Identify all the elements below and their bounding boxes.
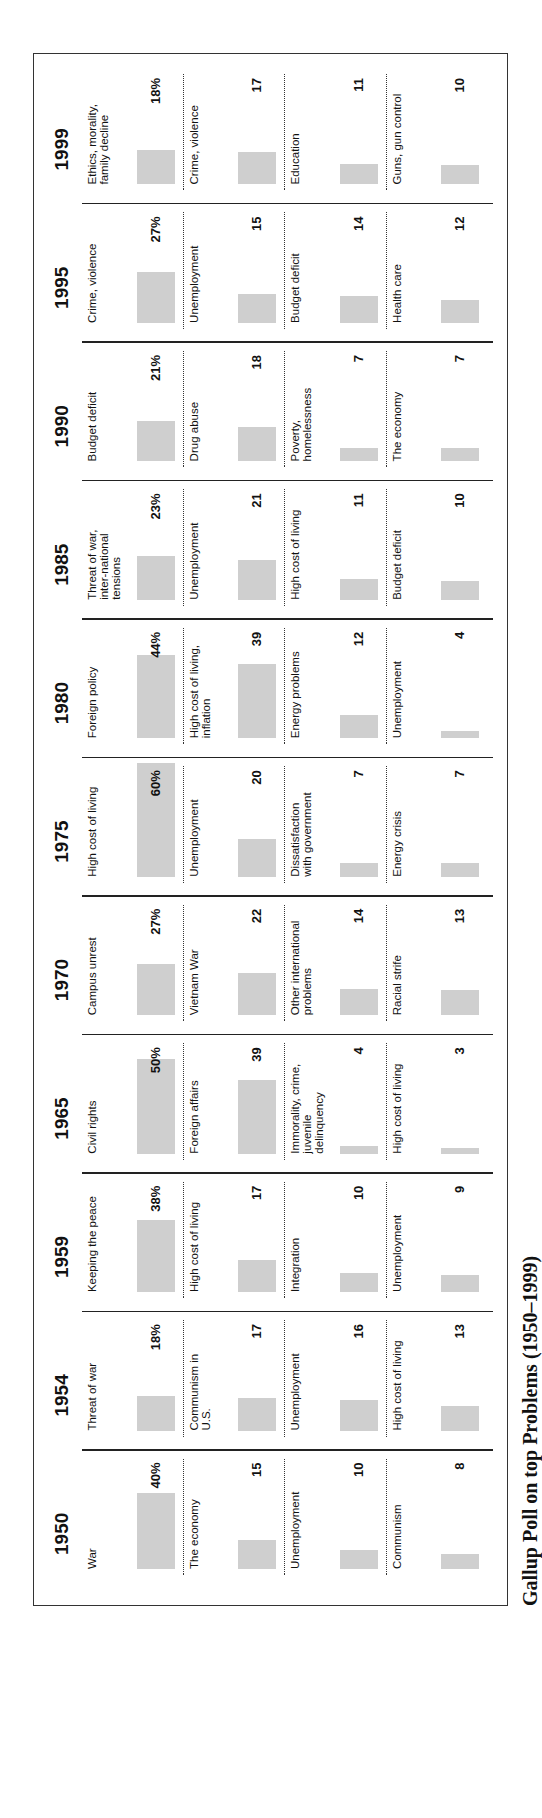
year-heading: 1954 (48, 1320, 82, 1436)
value-bar (441, 863, 479, 876)
percent-value: 13 (452, 1324, 467, 1338)
problem-label: Budget deficit (391, 504, 403, 600)
value-bar (238, 839, 276, 877)
problem-label: Unemployment (289, 1473, 301, 1569)
percent-value: 13 (452, 909, 467, 923)
problem-label: High cost of living (86, 781, 98, 877)
percent-value: 38% (148, 1186, 163, 1212)
percent-value: 60% (148, 770, 163, 796)
problem-label: High cost of living (289, 504, 301, 600)
value-bar (238, 1260, 276, 1292)
problem-label: Guns, gun control (391, 88, 403, 184)
problem-label: Integration (289, 1196, 301, 1292)
problem-label: Dissatisfaction with government (289, 781, 313, 877)
problem-label: Education (289, 88, 301, 184)
chart-caption: Gallup Poll on top Problems (1950–1999) (519, 1256, 542, 1606)
year-heading: 1950 (48, 1459, 82, 1575)
value-bar (238, 1541, 276, 1570)
problem-label: The economy (188, 1473, 200, 1569)
year-heading: 1985 (48, 489, 82, 605)
problem-label: Unemployment (188, 504, 200, 600)
problem-cell: Budget deficit21% (82, 351, 184, 467)
problem-cell: Budget deficit10 (387, 489, 488, 605)
chart-frame: 1950War40%The economy15Unemployment10Com… (33, 53, 508, 1606)
problem-cell: Foreign policy44% (82, 628, 184, 744)
problem-cell: Crime, violence17 (184, 74, 286, 190)
year-column-1999: 1999Ethics, morality, family decline18%C… (48, 66, 487, 204)
problem-cell: War40% (82, 1459, 184, 1575)
problem-cell: High cost of living, inflation39 (184, 628, 286, 744)
value-bar (340, 579, 378, 600)
percent-value: 44% (148, 632, 163, 658)
value-bar (340, 715, 378, 738)
problem-cell: Drug abuse18 (184, 351, 286, 467)
value-bar (340, 448, 378, 461)
percent-value: 9 (452, 1186, 467, 1193)
problem-cell: Racial strife13 (387, 905, 488, 1021)
percent-value: 17 (249, 1324, 264, 1338)
problem-cell: High cost of living60% (82, 766, 184, 882)
value-bar (441, 1275, 479, 1292)
problem-cell: Ethics, morality, family decline18% (82, 74, 184, 190)
percent-value: 7 (452, 770, 467, 777)
year-column-1975: 1975High cost of living60%Unemployment20… (48, 758, 487, 896)
percent-value: 21 (249, 493, 264, 507)
problem-cell: Poverty, homelessness7 (285, 351, 387, 467)
problem-label: Other international problems (289, 919, 313, 1015)
problem-label: Foreign policy (86, 642, 98, 738)
problem-cell: Integration10 (285, 1182, 387, 1298)
problem-label: High cost of living, inflation (188, 642, 212, 738)
year-column-1950: 1950War40%The economy15Unemployment10Com… (48, 1451, 487, 1589)
value-bar (238, 973, 276, 1015)
problem-cell: Threat of war18% (82, 1320, 184, 1436)
percent-value: 27% (148, 909, 163, 935)
problem-label: Threat of war, inter-national tensions (86, 504, 122, 600)
year-columns: 1950War40%The economy15Unemployment10Com… (48, 66, 487, 1589)
problem-label: Energy crisis (391, 781, 403, 877)
value-bar (441, 448, 479, 461)
year-heading: 1990 (48, 351, 82, 467)
value-bar (340, 1550, 378, 1569)
value-bar (441, 731, 479, 739)
percent-value: 11 (351, 493, 366, 507)
problem-cell: The economy15 (184, 1459, 286, 1575)
value-bar (441, 165, 479, 184)
problem-label: Threat of war (86, 1335, 98, 1431)
value-bar (340, 863, 378, 876)
value-bar (137, 150, 175, 184)
problem-cell: The economy7 (387, 351, 488, 467)
value-bar (340, 164, 378, 185)
percent-value: 18% (148, 78, 163, 104)
problem-label: Health care (391, 227, 403, 323)
problem-cell: High cost of living13 (387, 1320, 488, 1436)
problem-label: Communism (391, 1473, 403, 1569)
value-bar (340, 1400, 378, 1430)
year-heading: 1970 (48, 905, 82, 1021)
problem-cell: Guns, gun control10 (387, 74, 488, 190)
problem-cell: High cost of living11 (285, 489, 387, 605)
problem-cell: Threat of war, inter-national tensions23… (82, 489, 184, 605)
value-bar (441, 300, 479, 323)
percent-value: 17 (249, 1186, 264, 1200)
problem-cell: Unemployment15 (184, 212, 286, 328)
problem-label: The economy (391, 365, 403, 461)
value-bar (238, 152, 276, 184)
percent-value: 10 (351, 1463, 366, 1477)
problem-cell: High cost of living17 (184, 1182, 286, 1298)
year-heading: 1975 (48, 766, 82, 882)
value-bar (441, 1406, 479, 1431)
problem-cell: Other international problems14 (285, 905, 387, 1021)
problem-label: War (86, 1473, 98, 1569)
year-column-1995: 1995Crime, violence27%Unemployment15Budg… (48, 204, 487, 342)
value-bar (441, 1148, 479, 1154)
problem-cell: Budget deficit14 (285, 212, 387, 328)
percent-value: 4 (452, 632, 467, 639)
value-bar (137, 556, 175, 600)
value-bar (137, 272, 175, 323)
year-column-1954: 1954Threat of war18%Communism in U.S.17U… (48, 1312, 487, 1450)
percent-value: 22 (249, 909, 264, 923)
percent-value: 21% (148, 355, 163, 381)
problem-label: Foreign affairs (188, 1058, 200, 1154)
year-column-1990: 1990Budget deficit21%Drug abuse18Poverty… (48, 343, 487, 481)
value-bar (238, 560, 276, 600)
